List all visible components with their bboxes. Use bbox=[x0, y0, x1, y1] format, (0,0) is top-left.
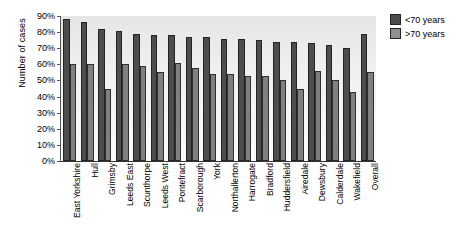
bar-lt70[interactable] bbox=[238, 39, 244, 161]
bar-gt70[interactable] bbox=[105, 89, 111, 162]
bar-group bbox=[151, 16, 164, 161]
x-axis-labels: East YorkshireHullGrimsbyLeeds EastScunt… bbox=[60, 163, 375, 249]
bar-lt70[interactable] bbox=[116, 31, 122, 162]
x-axis-label: Dewsbury bbox=[317, 163, 327, 201]
y-axis-tick-label: 50% bbox=[37, 75, 55, 85]
bar-group bbox=[308, 16, 321, 161]
x-axis-label: Pontefract bbox=[177, 163, 187, 202]
bar-gt70[interactable] bbox=[262, 76, 268, 161]
bar-lt70[interactable] bbox=[308, 43, 314, 161]
bar-group bbox=[168, 16, 181, 161]
bar-gt70[interactable] bbox=[210, 74, 216, 161]
bar-gt70[interactable] bbox=[350, 92, 356, 161]
bar-group bbox=[186, 16, 199, 161]
bar-group bbox=[256, 16, 269, 161]
legend-label: <70 years bbox=[405, 15, 445, 25]
bar-group bbox=[361, 16, 374, 161]
x-axis-label: Bradford bbox=[265, 163, 275, 196]
bar-gt70[interactable] bbox=[367, 72, 373, 161]
bar-gt70[interactable] bbox=[332, 80, 338, 161]
y-axis-tick-label: 10% bbox=[37, 140, 55, 150]
plot-area: 0%10%20%30%40%50%60%70%80%90% bbox=[60, 16, 376, 162]
x-axis-label: York bbox=[212, 163, 222, 180]
x-axis-label: Airedale bbox=[300, 163, 310, 195]
bar-gt70[interactable] bbox=[122, 64, 128, 161]
legend-swatch-icon bbox=[390, 28, 401, 39]
y-axis-tick-label: 40% bbox=[37, 92, 55, 102]
bar-gt70[interactable] bbox=[297, 89, 303, 162]
bar-gt70[interactable] bbox=[280, 80, 286, 161]
x-axis-label: Leeds East bbox=[125, 163, 135, 206]
bar-chart: Number of cases 0%10%20%30%40%50%60%70%8… bbox=[0, 0, 476, 250]
x-axis-label: Huddersfield bbox=[282, 163, 292, 211]
bar-group bbox=[116, 16, 129, 161]
x-axis-label: Hull bbox=[90, 163, 100, 178]
legend-item[interactable]: <70 years bbox=[390, 14, 472, 25]
x-axis-label: Leeds West bbox=[160, 163, 170, 208]
bar-group bbox=[238, 16, 251, 161]
legend-item[interactable]: >70 years bbox=[390, 28, 472, 39]
chart-legend: <70 years>70 years bbox=[390, 14, 472, 42]
bar-lt70[interactable] bbox=[151, 35, 157, 161]
x-axis-label: Wakefield bbox=[352, 163, 362, 200]
bar-gt70[interactable] bbox=[192, 68, 198, 161]
y-axis-tick bbox=[57, 161, 61, 162]
x-axis-label: Northallerton bbox=[230, 163, 240, 212]
x-axis-label: Grimsby bbox=[107, 163, 117, 195]
bar-lt70[interactable] bbox=[133, 34, 139, 161]
bar-lt70[interactable] bbox=[221, 39, 227, 161]
bar-group bbox=[133, 16, 146, 161]
bar-group bbox=[326, 16, 339, 161]
y-axis-tick-label: 30% bbox=[37, 108, 55, 118]
legend-label: >70 years bbox=[405, 29, 445, 39]
bar-group bbox=[343, 16, 356, 161]
bars-layer bbox=[61, 16, 376, 161]
bar-lt70[interactable] bbox=[291, 42, 297, 161]
bar-group bbox=[63, 16, 76, 161]
bar-lt70[interactable] bbox=[63, 19, 69, 161]
bar-group bbox=[221, 16, 234, 161]
y-axis-tick-label: 90% bbox=[37, 11, 55, 21]
y-axis-tick-label: 60% bbox=[37, 59, 55, 69]
bar-lt70[interactable] bbox=[186, 37, 192, 161]
y-axis-tick-label: 70% bbox=[37, 43, 55, 53]
bar-gt70[interactable] bbox=[87, 64, 93, 161]
bar-lt70[interactable] bbox=[273, 42, 279, 161]
bar-lt70[interactable] bbox=[326, 45, 332, 161]
bar-gt70[interactable] bbox=[175, 63, 181, 161]
y-axis-tick-label: 20% bbox=[37, 124, 55, 134]
bar-gt70[interactable] bbox=[157, 72, 163, 161]
bar-group bbox=[291, 16, 304, 161]
x-axis-label: Overall bbox=[370, 163, 380, 190]
y-axis-tick-label: 80% bbox=[37, 27, 55, 37]
bar-lt70[interactable] bbox=[98, 29, 104, 161]
bar-gt70[interactable] bbox=[140, 66, 146, 161]
x-axis-label: Calderdale bbox=[335, 163, 345, 205]
legend-swatch-icon bbox=[390, 14, 401, 25]
y-axis-title: Number of cases bbox=[17, 0, 27, 113]
bar-lt70[interactable] bbox=[203, 37, 209, 161]
bar-lt70[interactable] bbox=[168, 35, 174, 161]
bar-group bbox=[273, 16, 286, 161]
bar-gt70[interactable] bbox=[245, 76, 251, 161]
x-axis-label: Scarborough bbox=[195, 163, 205, 212]
bar-lt70[interactable] bbox=[256, 40, 262, 161]
bar-group bbox=[81, 16, 94, 161]
bar-group bbox=[203, 16, 216, 161]
bar-lt70[interactable] bbox=[81, 22, 87, 161]
bar-group bbox=[98, 16, 111, 161]
bar-gt70[interactable] bbox=[315, 71, 321, 161]
y-axis-tick-label: 0% bbox=[42, 156, 55, 166]
x-axis-label: Harrogate bbox=[247, 163, 257, 201]
bar-lt70[interactable] bbox=[343, 48, 349, 161]
bar-gt70[interactable] bbox=[70, 64, 76, 161]
x-axis-label: East Yorkshire bbox=[72, 163, 82, 218]
x-axis-label: Scunthorpe bbox=[142, 163, 152, 207]
bar-gt70[interactable] bbox=[227, 74, 233, 161]
bar-lt70[interactable] bbox=[361, 34, 367, 161]
